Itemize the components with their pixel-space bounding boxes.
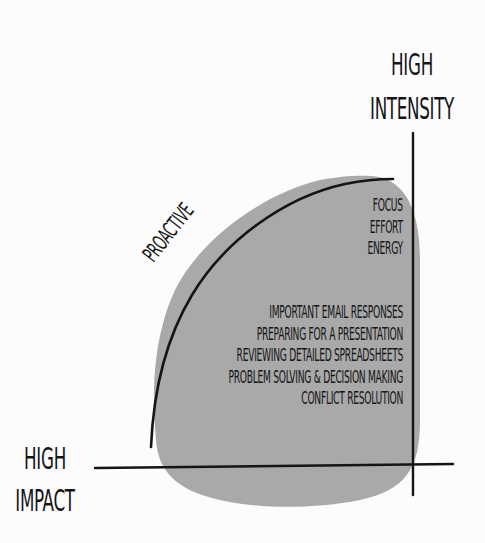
high-intensity-high-impact-diagram: HIGH INTENSITY HIGH IMPACT PROACTIVE FOC… bbox=[0, 0, 485, 543]
horizontal-axis-label-line2: IMPACT bbox=[0, 486, 101, 528]
vertical-axis-label-line1: HIGH bbox=[356, 50, 468, 94]
trait-item: ENERGY bbox=[368, 238, 403, 260]
vertical-axis-label: HIGH INTENSITY bbox=[356, 50, 468, 138]
trait-item: FOCUS bbox=[368, 195, 403, 217]
horizontal-axis-label-line1: HIGH bbox=[0, 444, 101, 486]
task-item: PROBLEM SOLVING & DECISION MAKING bbox=[228, 367, 403, 389]
task-item: CONFLICT RESOLUTION bbox=[228, 388, 403, 410]
traits-list: FOCUS EFFORT ENERGY bbox=[344, 195, 403, 260]
task-item: REVIEWING DETAILED SPREADSHEETS bbox=[228, 345, 403, 367]
task-item: IMPORTANT EMAIL RESPONSES bbox=[228, 302, 403, 324]
tasks-list: IMPORTANT EMAIL RESPONSES PREPARING FOR … bbox=[112, 302, 403, 410]
vertical-axis-label-line2: INTENSITY bbox=[356, 94, 468, 138]
horizontal-axis-label: HIGH IMPACT bbox=[0, 444, 101, 528]
task-item: PREPARING FOR A PRESENTATION bbox=[228, 324, 403, 346]
trait-item: EFFORT bbox=[368, 217, 403, 239]
